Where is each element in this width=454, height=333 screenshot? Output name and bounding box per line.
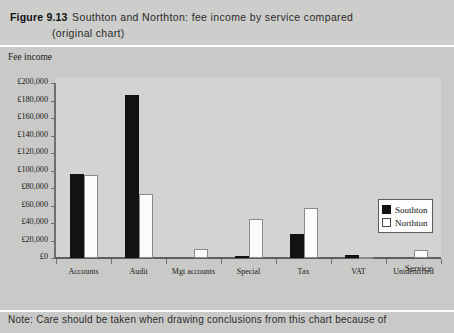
x-tick-mark (441, 259, 442, 264)
x-tick-mark (56, 259, 57, 264)
legend-swatch-northton-icon (382, 218, 391, 227)
y-tick-label: £180,000 (17, 95, 48, 104)
figure-title: Southton and Northton: fee income by ser… (72, 11, 353, 23)
y-tick-label: £100,000 (17, 165, 48, 174)
bar-northton-vat (359, 257, 373, 259)
x-tick-mark (111, 259, 112, 264)
bar-southton-tax (290, 234, 304, 259)
bar-southton-special (235, 256, 249, 258)
legend-swatch-southton-icon (382, 205, 391, 214)
x-category-label: Accounts (68, 267, 98, 276)
bar-northton-audit (139, 194, 153, 258)
bar-southton-audit (125, 95, 139, 258)
x-tick-mark (166, 259, 167, 264)
x-tick-mark (386, 259, 387, 264)
y-tick-label: £140,000 (17, 130, 48, 139)
y-tick: £0 (0, 258, 56, 259)
y-tick-label: £60,000 (21, 200, 48, 209)
x-category-label: Audit (129, 267, 147, 276)
y-tick-mark (51, 136, 56, 137)
y-tick-label: £20,000 (21, 235, 48, 244)
y-tick: £140,000 (0, 136, 56, 137)
x-category-label: Mgt accounts (172, 267, 215, 276)
bar-southton-accounts (70, 174, 84, 258)
y-tick-label: £40,000 (21, 217, 48, 226)
bar-southton-vat (345, 255, 359, 259)
y-tick-mark (51, 223, 56, 224)
caption-second-line: (original chart) (52, 23, 125, 41)
x-tick-mark (221, 259, 222, 264)
y-tick: £100,000 (0, 171, 56, 172)
legend-entry-southton: Southton (382, 203, 428, 216)
y-tick-mark (51, 118, 56, 119)
bar-northton-unidentified (414, 250, 428, 258)
figure-number: Figure 9.13 (10, 11, 68, 23)
x-category-label: Tax (298, 267, 310, 276)
legend-label-northton: Northton (395, 218, 428, 228)
y-tick-mark (51, 241, 56, 242)
x-tick-mark (276, 259, 277, 264)
bar-northton-accounts (84, 175, 98, 258)
bar-northton-tax (304, 208, 318, 258)
bar-northton-mgt-accounts (194, 249, 208, 258)
legend-entry-northton: Northton (382, 216, 428, 229)
y-tick-mark (51, 188, 56, 189)
bar-northton-special (249, 219, 263, 258)
figure-note: Note: Care should be taken when drawing … (8, 314, 387, 325)
y-tick: £40,000 (0, 223, 56, 224)
y-tick-label: £200,000 (17, 77, 48, 86)
bar-chart: Fee income £200,000£180,000£160,000£140,… (0, 47, 454, 292)
y-axis-title: Fee income (8, 52, 52, 62)
y-tick: £160,000 (0, 118, 56, 119)
x-tick-mark (331, 259, 332, 264)
y-tick-label: £80,000 (21, 182, 48, 191)
y-tick-label: £160,000 (17, 112, 48, 121)
y-tick: £180,000 (0, 101, 56, 102)
y-tick-label: £120,000 (17, 147, 48, 156)
x-category-label: Special (237, 267, 261, 276)
y-tick-label: £0 (40, 252, 48, 261)
y-tick: £120,000 (0, 153, 56, 154)
x-category-label: VAT (351, 267, 366, 276)
legend-label-southton: Southton (395, 205, 428, 215)
y-tick: £80,000 (0, 188, 56, 189)
y-tick-mark (51, 206, 56, 207)
x-axis-title: Service (405, 263, 432, 273)
y-tick-mark (51, 101, 56, 102)
y-tick: £200,000 (0, 83, 56, 84)
y-tick-mark (51, 171, 56, 172)
y-tick-mark (51, 83, 56, 84)
chart-legend: Southton Northton (378, 199, 433, 233)
y-tick-mark (51, 153, 56, 154)
figure-note-band: Note: Care should be taken when drawing … (0, 292, 454, 333)
y-tick: £60,000 (0, 206, 56, 207)
y-tick: £20,000 (0, 241, 56, 242)
figure-subtitle: (original chart) (52, 27, 125, 39)
figure-caption-band: Figure 9.13 Southton and Northton: fee i… (0, 0, 454, 47)
